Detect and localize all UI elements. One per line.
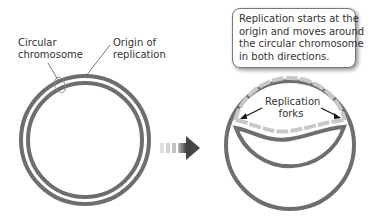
label-line: Replication: [265, 96, 317, 108]
label-line: replication: [113, 49, 166, 61]
leader-line-origin: [86, 45, 110, 76]
label-origin-of-replication: Origin of replication: [113, 37, 166, 61]
parental-strand-inner: [236, 127, 344, 166]
callout-line: origin and moves around: [239, 26, 349, 39]
explanation-callout: Replication starts at the origin and mov…: [232, 8, 356, 68]
fork-arrow-right-icon: [334, 113, 341, 119]
label-line: Circular: [18, 37, 83, 49]
fork-arrow-left-icon: [240, 113, 247, 119]
transition-arrow-icon: [160, 136, 200, 160]
label-line: forks: [265, 108, 317, 120]
label-circular-chromosome: Circular chromosome: [18, 37, 83, 61]
callout-line: the circular chromosome: [239, 38, 349, 51]
callout-line: in both directions.: [239, 51, 349, 64]
label-line: chromosome: [18, 49, 83, 61]
leader-line-chromosome: [48, 63, 58, 80]
label-replication-forks: Replication forks: [265, 96, 317, 120]
callout-line: Replication starts at the: [239, 13, 349, 26]
circular-chromosome: [21, 76, 149, 204]
label-line: Origin of: [113, 37, 166, 49]
